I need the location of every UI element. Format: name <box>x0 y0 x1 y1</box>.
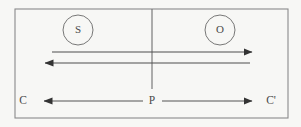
point-p-label: P <box>149 94 155 106</box>
source-label: S <box>75 23 81 35</box>
diagram-root: S O C P C' <box>0 0 301 127</box>
point-c-prime-label: C' <box>266 94 276 106</box>
optics-ray-diagram: S O C P C' <box>0 0 301 127</box>
observer-label: O <box>216 23 224 35</box>
point-c-label: C <box>19 94 27 106</box>
